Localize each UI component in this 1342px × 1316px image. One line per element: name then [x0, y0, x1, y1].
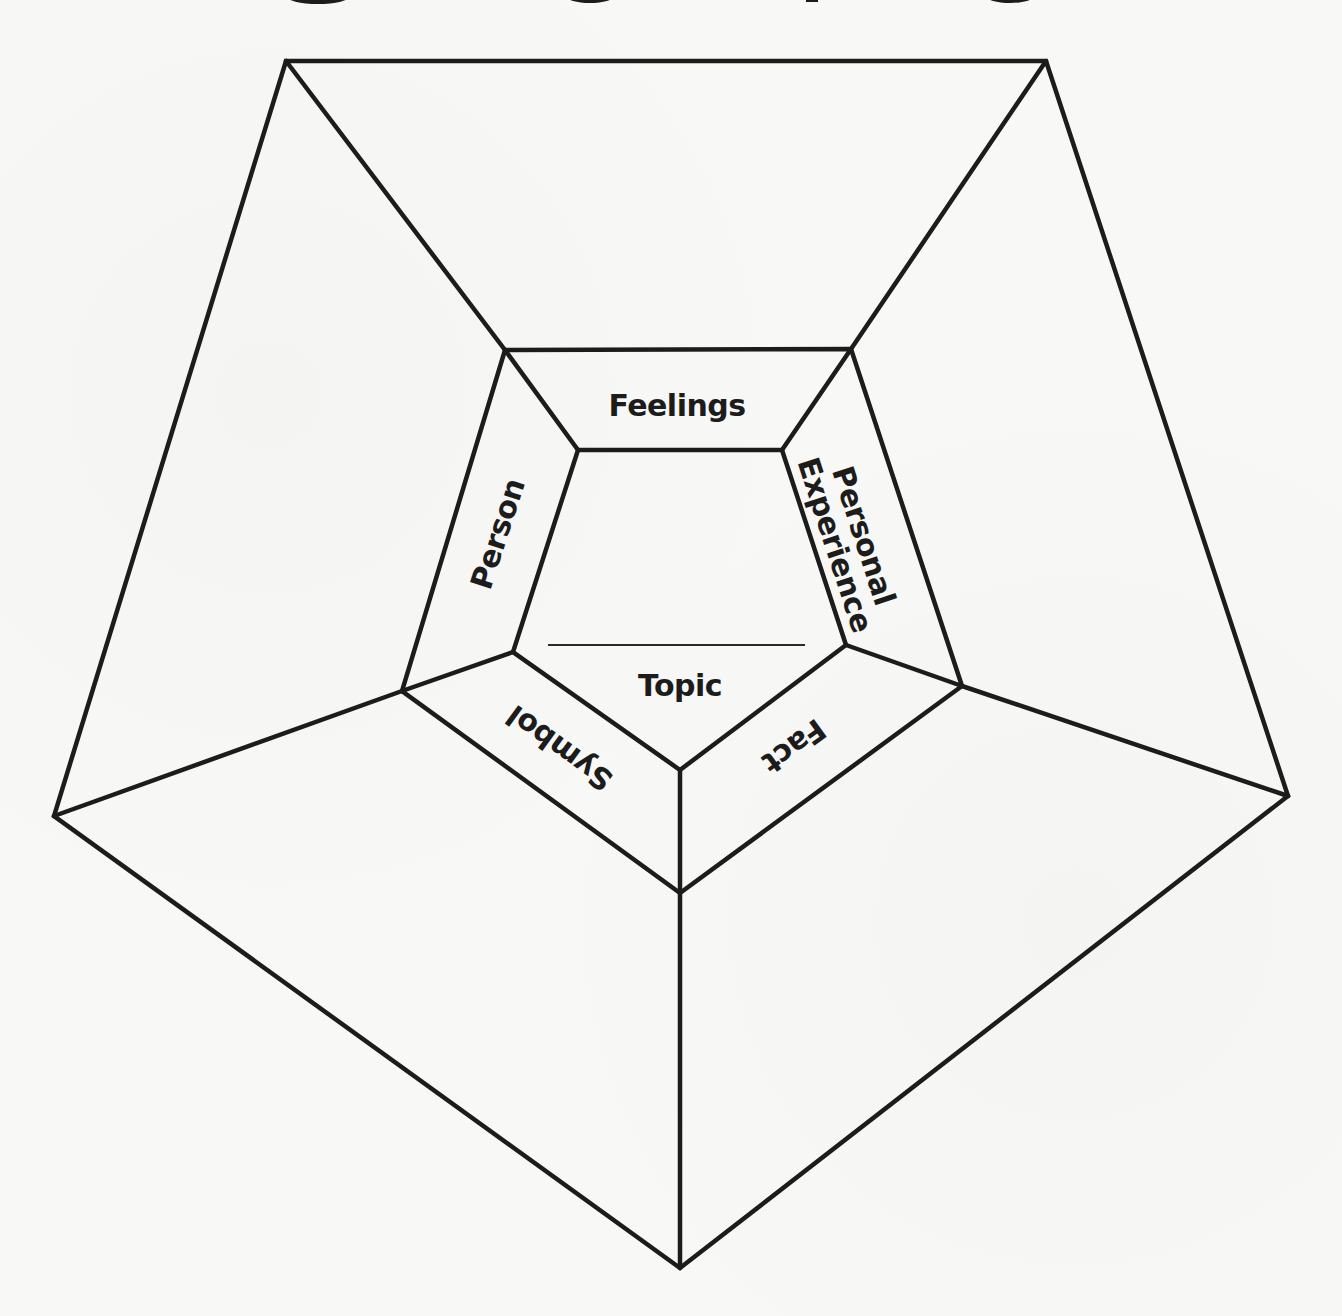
cropped-title-fragments: [286, 0, 1034, 4]
inner-pentagon: [513, 450, 846, 770]
label-fact: Fact: [756, 712, 833, 781]
label-topic: Topic: [638, 668, 722, 703]
outer-spokes: [54, 61, 1288, 1268]
label-person: Person: [463, 474, 532, 593]
pentagon-diagram: Topic Feelings Person Personal Experienc…: [0, 0, 1342, 1316]
label-feelings: Feelings: [608, 388, 745, 423]
outer-pentagon: [54, 61, 1288, 1268]
